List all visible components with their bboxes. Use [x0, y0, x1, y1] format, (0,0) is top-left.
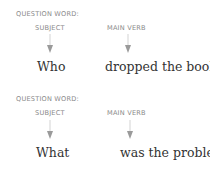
question-word-label: QUESTION WORD: — [16, 96, 79, 103]
arrow-down-icon — [123, 34, 133, 54]
subject-label: SUBJECT — [35, 25, 65, 32]
arrow-down-icon — [125, 120, 135, 140]
main-verb-label: MAIN VERB — [107, 25, 146, 32]
question-word-label: QUESTION WORD: — [16, 11, 79, 18]
predicate-text: was the problem? — [120, 147, 210, 160]
arrow-down-icon — [45, 120, 55, 140]
subject-word: Who — [37, 61, 65, 74]
main-verb-label: MAIN VERB — [107, 110, 146, 117]
arrow-down-icon — [45, 34, 55, 54]
subject-word: What — [36, 147, 69, 160]
subject-label: SUBJECT — [35, 110, 65, 117]
predicate-text: dropped the book? — [105, 61, 210, 74]
